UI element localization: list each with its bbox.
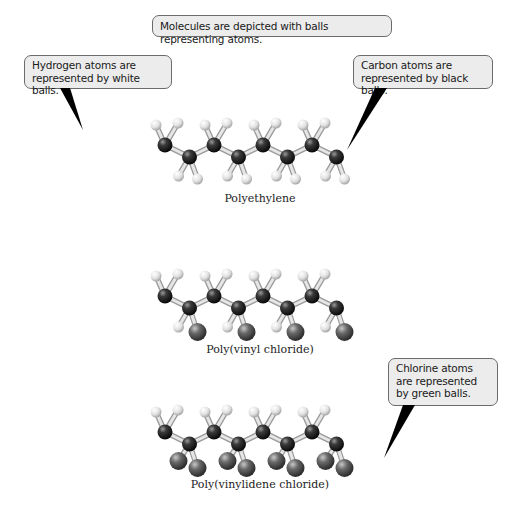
hydrogen-atom xyxy=(151,271,162,282)
chlorine-pointer xyxy=(384,405,415,458)
hydrogen-atom xyxy=(222,405,233,416)
carbon-atom xyxy=(158,138,173,153)
hydrogen-atom xyxy=(271,118,282,129)
hydrogen-atom xyxy=(241,174,252,185)
chlorine-atom xyxy=(219,452,237,470)
carbon-atom xyxy=(231,437,246,452)
hydrogen-atom xyxy=(173,322,184,333)
chlorine-atom xyxy=(189,459,207,477)
chlorine-atom xyxy=(268,452,286,470)
hydrogen-atom xyxy=(320,171,331,182)
carbon-atom xyxy=(256,289,271,304)
carbon-atom xyxy=(182,437,197,452)
hydrogen-atom xyxy=(173,405,184,416)
carbon-atom xyxy=(207,289,222,304)
carbon-atom xyxy=(305,289,320,304)
chlorine-atom xyxy=(317,452,335,470)
hydrogen-atom xyxy=(298,407,309,418)
hydrogen-atom xyxy=(222,322,233,333)
hydrogen-atom xyxy=(271,269,282,280)
carbon-atom xyxy=(256,425,271,440)
carbon-atom xyxy=(305,425,320,440)
carbon-atom xyxy=(207,138,222,153)
hydrogen-atom xyxy=(339,174,350,185)
hydrogen-atom xyxy=(249,407,260,418)
chlorine-atom xyxy=(238,323,256,341)
hydrogen-atom xyxy=(192,174,203,185)
carbon-atom xyxy=(158,425,173,440)
hydrogen-atom xyxy=(200,120,211,131)
hydrogen-atom xyxy=(200,407,211,418)
chlorine-atom xyxy=(287,459,305,477)
hydrogen-atom xyxy=(151,407,162,418)
chlorine-atom xyxy=(238,459,256,477)
hydrogen-atom xyxy=(320,118,331,129)
hydrogen-atom xyxy=(271,171,282,182)
hydrogen-atom xyxy=(249,120,260,131)
hydrogen-atom xyxy=(200,271,211,282)
carbon-atom xyxy=(329,150,344,165)
pvdc-label: Poly(vinylidene chloride) xyxy=(160,478,360,491)
carbon-atom xyxy=(280,437,295,452)
hydrogen-atom xyxy=(222,269,233,280)
hydrogen-atom xyxy=(173,118,184,129)
carbon-atom xyxy=(280,150,295,165)
chlorine-atom xyxy=(189,323,207,341)
molecule-diagrams xyxy=(0,0,513,511)
carbon-atom xyxy=(182,150,197,165)
carbon-atom xyxy=(329,301,344,316)
hydrogen-atom xyxy=(271,405,282,416)
carbon-atom xyxy=(231,150,246,165)
carbon-atom xyxy=(231,301,246,316)
hydrogen-atom xyxy=(249,271,260,282)
chlorine-atom xyxy=(336,459,354,477)
carbon-atom xyxy=(256,138,271,153)
carbon-atom xyxy=(305,138,320,153)
pvc-label: Poly(vinyl chloride) xyxy=(160,343,360,356)
hydrogen-atom xyxy=(271,322,282,333)
hydrogen-atom xyxy=(320,405,331,416)
hydrogen-atom xyxy=(290,174,301,185)
hydrogen-atom xyxy=(151,120,162,131)
carbon-atom xyxy=(158,289,173,304)
carbon-atom xyxy=(280,301,295,316)
hydrogen-atom xyxy=(222,171,233,182)
hydrogen-atom xyxy=(320,269,331,280)
carbon-pointer xyxy=(347,88,387,150)
hydrogen-atom xyxy=(222,118,233,129)
hydrogen-atom xyxy=(173,269,184,280)
hydrogen-atom xyxy=(298,271,309,282)
hydrogen-atom xyxy=(298,120,309,131)
hydrogen-pointer xyxy=(60,88,83,130)
polyethylene-label: Polyethylene xyxy=(160,192,360,205)
hydrogen-atom xyxy=(320,322,331,333)
chlorine-atom xyxy=(170,452,188,470)
chlorine-atom xyxy=(287,323,305,341)
hydrogen-atom xyxy=(173,171,184,182)
chlorine-atom xyxy=(336,323,354,341)
carbon-atom xyxy=(182,301,197,316)
carbon-atom xyxy=(329,437,344,452)
carbon-atom xyxy=(207,425,222,440)
